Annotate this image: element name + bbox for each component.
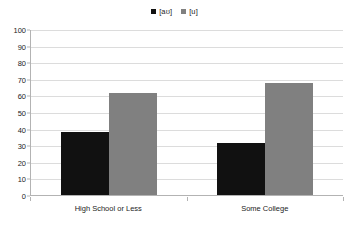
y-axis-tick-label: 10 — [18, 175, 26, 184]
x-axis-tick-mark — [30, 197, 31, 201]
bar-group — [31, 30, 187, 195]
x-axis: High School or LessSome College — [30, 197, 343, 213]
y-axis-tick-label: 90 — [18, 42, 26, 51]
y-axis-tick-label: 100 — [13, 26, 26, 35]
bars-layer — [31, 30, 343, 195]
chart-legend: [aʊ] [u] — [0, 8, 349, 16]
x-axis-tick-mark — [187, 197, 188, 201]
x-axis-category-label: High School or Less — [30, 197, 187, 213]
y-axis: 1009080706050403020100 — [0, 30, 30, 196]
legend-label-u: [u] — [189, 8, 198, 16]
x-axis-tick-mark — [343, 197, 344, 201]
legend-swatch-au — [151, 9, 156, 14]
y-axis-tick-label: 70 — [18, 75, 26, 84]
bar-group — [187, 30, 343, 195]
y-axis-tick-label: 80 — [18, 59, 26, 68]
legend-label-au: [aʊ] — [159, 8, 172, 16]
bar-series1[interactable] — [217, 143, 265, 195]
legend-entry-u: [u] — [181, 8, 198, 16]
bar-chart: [aʊ] [u] 1009080706050403020100 High Sch… — [0, 0, 349, 226]
y-axis-tick-label: 40 — [18, 125, 26, 134]
y-axis-tick-label: 60 — [18, 92, 26, 101]
plot-area — [30, 30, 343, 196]
y-axis-tick-label: 30 — [18, 142, 26, 151]
x-axis-category-label: Some College — [187, 197, 344, 213]
y-axis-tick-label: 0 — [22, 192, 26, 201]
legend-entry-au: [aʊ] — [151, 8, 172, 16]
y-axis-tick-label: 50 — [18, 109, 26, 118]
bar-series2[interactable] — [265, 83, 313, 195]
bar-series1[interactable] — [61, 132, 109, 195]
y-axis-tick-label: 20 — [18, 158, 26, 167]
bar-series2[interactable] — [109, 93, 157, 195]
legend-swatch-u — [181, 9, 186, 14]
